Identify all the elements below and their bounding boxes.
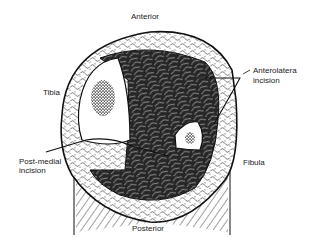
anterolateral-incision-label-1: Anterolatera <box>253 66 297 75</box>
postmedial-incision-label-1: Post-medial <box>19 157 61 166</box>
tibia-label: Tibia <box>43 88 60 97</box>
postmedial-incision-label-2: incision <box>19 166 46 175</box>
fibula-label: Fibula <box>243 158 265 167</box>
anterolateral-incision-label-2: incision <box>253 76 280 85</box>
anterior-label: Anterior <box>131 12 159 21</box>
posterior-label: Posterior <box>132 224 164 233</box>
tibia-marrow <box>91 80 115 116</box>
leg-cross-section-diagram <box>0 0 312 243</box>
